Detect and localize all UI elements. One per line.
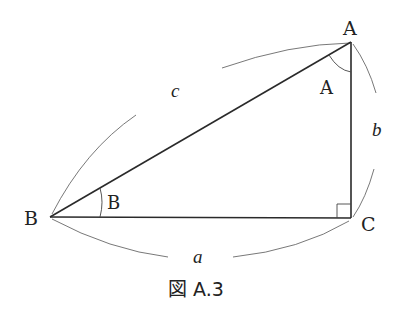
side-b-arc-upper <box>353 44 376 93</box>
angle-b-arc <box>100 188 102 217</box>
right-angle-marker <box>337 204 351 218</box>
angle-a-arc <box>329 55 351 72</box>
side-label-c: c <box>171 80 180 101</box>
side-c-arc-lower <box>52 115 136 214</box>
side-label-b: b <box>372 119 382 140</box>
figure-caption: 図 A.3 <box>168 278 224 300</box>
side-c-hypotenuse <box>50 42 351 217</box>
side-b-arc-lower <box>353 169 374 217</box>
side-a-arc-right <box>233 221 349 257</box>
side-a-arc-left <box>52 219 168 257</box>
triangle-diagram: A B C A B c b a 図 A.3 <box>0 0 405 318</box>
vertex-label-b: B <box>24 207 38 229</box>
side-c-arc-upper <box>222 43 350 68</box>
side-a-base <box>50 217 351 218</box>
vertex-label-a: A <box>342 17 357 39</box>
vertex-label-c: C <box>361 213 376 235</box>
angle-label-a: A <box>319 77 334 98</box>
side-label-a: a <box>193 246 203 267</box>
angle-label-b: B <box>107 192 120 213</box>
